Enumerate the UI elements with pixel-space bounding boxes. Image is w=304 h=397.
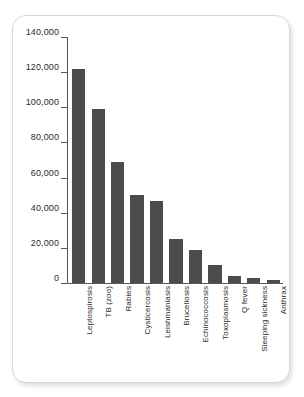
- bar: [130, 195, 143, 283]
- x-axis-tick-label: TB (zoo): [101, 286, 110, 317]
- x-axis-tick-label: Leishmaniasis: [160, 286, 169, 338]
- bar: [208, 265, 221, 283]
- bar: [72, 69, 85, 283]
- x-axis-tick-label: Brucellosis: [179, 286, 188, 326]
- x-axis-tick-label: Toxoplasmosis: [218, 286, 227, 340]
- x-axis-tick-label: Leptospirosis: [82, 286, 91, 334]
- x-axis-tick-label: Sleeping sickness: [257, 286, 266, 352]
- x-axis-labels: LeptospirosisTB (zoo)RabiesCysticercosis…: [13, 284, 291, 380]
- x-axis-tick-label: Echinococcosis: [198, 286, 207, 343]
- bar-chart-plot-area: 020,00040,00060,00080,000100,000120,0001…: [13, 16, 291, 384]
- bar: [111, 162, 124, 283]
- bar: [189, 250, 202, 283]
- x-axis-tick-label: Cysticercosis: [140, 286, 149, 334]
- x-axis-tick-label: Rabies: [121, 286, 130, 312]
- x-axis-tick-label: Anthrax: [276, 286, 285, 314]
- bar: [169, 239, 182, 283]
- bar: [92, 109, 105, 283]
- bar: [150, 201, 163, 283]
- x-axis-tick-label: Q fever: [237, 286, 246, 313]
- bar: [247, 278, 260, 283]
- chart-card: 020,00040,00060,00080,000100,000120,0001…: [12, 15, 290, 383]
- bar: [228, 276, 241, 283]
- bar: [267, 280, 280, 283]
